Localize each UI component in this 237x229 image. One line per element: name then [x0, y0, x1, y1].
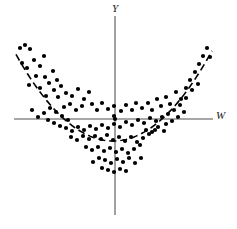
data-point [30, 108, 34, 112]
data-point [60, 114, 64, 118]
data-point [91, 160, 95, 164]
data-point [66, 118, 70, 122]
data-point [118, 125, 122, 129]
data-point [46, 118, 50, 122]
data-point [119, 109, 123, 113]
data-point [164, 95, 168, 99]
data-point [136, 118, 140, 122]
data-point [111, 138, 115, 142]
plot-canvas [0, 0, 237, 229]
x-axis-label: W [216, 110, 225, 121]
data-point [188, 78, 192, 82]
data-point [155, 97, 159, 101]
data-point [127, 156, 131, 160]
data-point [59, 84, 63, 88]
data-point [150, 130, 154, 134]
data-point [32, 58, 36, 62]
data-point [52, 121, 56, 125]
data-point [90, 102, 94, 106]
data-point [44, 94, 48, 98]
data-point [48, 106, 52, 110]
data-point [34, 74, 38, 78]
data-point [112, 104, 116, 108]
data-point [70, 129, 74, 133]
data-point [90, 148, 94, 152]
data-point [64, 91, 68, 95]
data-point [102, 149, 106, 153]
data-point [42, 54, 46, 58]
data-point [176, 115, 180, 119]
data-point [99, 137, 103, 141]
data-point [154, 119, 158, 123]
data-point [76, 125, 80, 129]
data-point [170, 119, 174, 123]
data-point [123, 139, 127, 143]
y-axis-label: Y [112, 3, 118, 14]
data-point [20, 61, 24, 65]
data-point [164, 122, 168, 126]
data-point [18, 46, 22, 50]
data-point [93, 134, 97, 138]
data-point [129, 135, 133, 139]
data-point [172, 108, 176, 112]
data-point [109, 161, 113, 165]
data-point [196, 82, 200, 86]
data-point [87, 137, 91, 141]
data-point [130, 108, 134, 112]
data-point [68, 102, 72, 106]
data-point [133, 161, 137, 165]
data-point [55, 78, 59, 82]
data-point [43, 75, 47, 79]
data-point [114, 150, 118, 154]
data-point [134, 101, 138, 105]
data-point [132, 147, 136, 151]
data-point [135, 140, 139, 144]
data-point [62, 105, 66, 109]
data-point [120, 147, 124, 151]
data-point [201, 54, 205, 58]
data-point [130, 123, 134, 127]
data-point [36, 115, 40, 119]
data-point [162, 129, 166, 133]
data-point [146, 101, 150, 105]
data-point [38, 64, 42, 68]
data-point [52, 88, 56, 92]
data-point [106, 168, 110, 172]
data-point [87, 90, 91, 94]
data-point [100, 166, 104, 170]
data-point [27, 83, 31, 87]
data-point [117, 135, 121, 139]
data-point [28, 47, 32, 51]
data-point [141, 136, 145, 140]
data-point [103, 158, 107, 162]
data-point [184, 96, 188, 100]
data-point [95, 108, 99, 112]
data-point [88, 124, 92, 128]
data-point [97, 156, 101, 160]
data-point [197, 62, 201, 66]
data-point [106, 126, 110, 130]
data-point [205, 46, 209, 50]
data-point [124, 169, 128, 173]
data-point [112, 170, 116, 174]
data-point [174, 90, 178, 94]
data-point [54, 110, 58, 114]
data-point [81, 134, 85, 138]
data-point [58, 124, 62, 128]
data-point [138, 143, 142, 147]
data-point [159, 104, 163, 108]
data-point [113, 117, 117, 121]
data-point [139, 156, 143, 160]
data-point [51, 69, 55, 73]
data-point [178, 103, 182, 107]
data-point [124, 103, 128, 107]
data-point [23, 43, 27, 47]
data-point [42, 111, 46, 115]
data-point [115, 157, 119, 161]
data-point [182, 110, 186, 114]
data-point [184, 86, 188, 90]
data-point [160, 115, 164, 119]
data-point [82, 97, 86, 101]
data-point [150, 108, 154, 112]
data-point [82, 128, 86, 132]
